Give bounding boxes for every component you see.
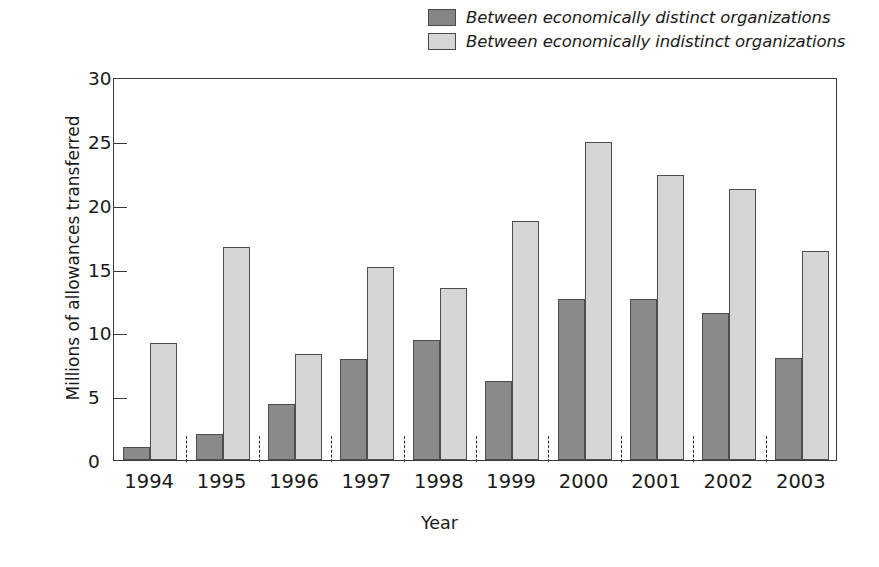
x-axis-tick-label-2000: 2000 <box>559 470 609 493</box>
y-axis-tick-label: 0 <box>88 451 101 473</box>
legend-item-distinct: Between economically distinct organizati… <box>428 6 868 28</box>
bar-1994-series1 <box>123 447 150 460</box>
bar-1994-series2 <box>150 343 177 460</box>
bar-1999-series2 <box>512 221 539 460</box>
bar-1999-series1 <box>485 381 512 460</box>
y-axis-tick-label: 30 <box>88 68 101 90</box>
y-axis-tick <box>114 207 127 208</box>
bar-2000-series2 <box>585 142 612 460</box>
chart-legend: Between economically distinct organizati… <box>428 6 868 54</box>
x-axis-tick-label-1996: 1996 <box>269 470 319 493</box>
legend-swatch-indistinct-icon <box>428 33 456 50</box>
bar-1996-series2 <box>295 354 322 460</box>
group-separator <box>186 436 187 462</box>
bar-2003-series2 <box>802 251 829 460</box>
bar-2001-series2 <box>657 175 684 460</box>
x-axis-tick-label-1998: 1998 <box>414 470 464 493</box>
bar-1998-series1 <box>413 340 440 460</box>
y-axis-tick-label: 20 <box>88 196 101 218</box>
bar-2003-series1 <box>775 358 802 460</box>
group-separator <box>476 436 477 462</box>
legend-label-indistinct: Between economically indistinct organiza… <box>466 32 845 51</box>
x-axis-tick-label-2003: 2003 <box>776 470 826 493</box>
bar-1996-series1 <box>268 404 295 460</box>
bar-2001-series1 <box>630 299 657 460</box>
group-separator <box>548 436 549 462</box>
x-axis-tick-label-2001: 2001 <box>631 470 681 493</box>
group-separator <box>331 436 332 462</box>
y-axis-tick <box>114 398 127 399</box>
y-axis-title: Millions of allowances transferred <box>63 58 83 458</box>
bar-1995-series1 <box>196 434 223 460</box>
bar-1995-series2 <box>223 247 250 460</box>
bar-1998-series2 <box>440 288 467 460</box>
x-axis-title: Year <box>0 513 879 533</box>
x-axis-tick-label-1994: 1994 <box>124 470 174 493</box>
y-axis-tick <box>114 271 127 272</box>
chart-figure: Between economically distinct organizati… <box>0 0 879 567</box>
y-axis-tick <box>114 143 127 144</box>
bar-2000-series1 <box>558 299 585 460</box>
x-axis-tick-label-1995: 1995 <box>197 470 247 493</box>
x-axis-tick-label-1999: 1999 <box>486 470 536 493</box>
group-separator <box>621 436 622 462</box>
x-axis-tick-label-1997: 1997 <box>342 470 392 493</box>
group-separator <box>693 436 694 462</box>
group-separator <box>259 436 260 462</box>
bar-2002-series2 <box>729 189 756 460</box>
legend-label-distinct: Between economically distinct organizati… <box>466 8 830 27</box>
y-axis-tick-label: 10 <box>88 323 101 345</box>
legend-item-indistinct: Between economically indistinct organiza… <box>428 30 868 52</box>
y-axis-tick <box>114 334 127 335</box>
y-axis-tick-label: 25 <box>88 132 101 154</box>
x-axis-tick-label-2002: 2002 <box>704 470 754 493</box>
bar-1997-series2 <box>367 267 394 460</box>
plot-area: 051015202530 <box>113 78 837 461</box>
y-axis-tick-label: 15 <box>88 259 101 281</box>
bar-2002-series1 <box>702 313 729 460</box>
y-axis-tick-label: 5 <box>88 387 101 409</box>
group-separator <box>766 436 767 462</box>
group-separator <box>404 436 405 462</box>
bar-1997-series1 <box>340 359 367 460</box>
legend-swatch-distinct-icon <box>428 9 456 26</box>
